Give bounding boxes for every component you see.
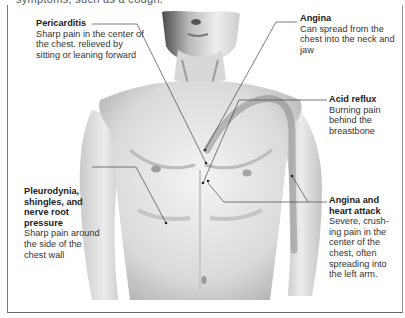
callout-description: Can spread from the chest into the neck … [300, 24, 395, 56]
callout-description: Burning pain behind the breastbone [329, 105, 399, 137]
callout-description: Sharp pain around the side of the chest … [24, 228, 104, 260]
callout-angina: Angina Can spread from the chest into th… [300, 13, 395, 55]
callout-title: Angina [300, 13, 395, 24]
callout-acid-reflux: Acid reflux Burning pain behind the brea… [329, 94, 399, 136]
callout-title: Angina and heart attack [329, 195, 399, 216]
callout-title: Pleurodynia, shingles, and nerve root pr… [24, 186, 104, 228]
nipple [151, 166, 161, 173]
callout-description: Severe, crush-ing pain in the center of … [329, 216, 399, 280]
callout-pericarditis: Pericarditis Sharp pain in the center of… [36, 18, 146, 60]
nipple [243, 170, 252, 177]
callout-heart-attack: Angina and heart attack Severe, crush-in… [329, 195, 399, 280]
callout-pleurodynia: Pleurodynia, shingles, and nerve root pr… [24, 186, 104, 260]
callout-description: Sharp pain in the center of the chest. r… [36, 29, 146, 61]
callout-title: Pericarditis [36, 18, 146, 29]
navel [202, 276, 207, 284]
head [162, 11, 240, 64]
callout-title: Acid reflux [329, 94, 399, 105]
